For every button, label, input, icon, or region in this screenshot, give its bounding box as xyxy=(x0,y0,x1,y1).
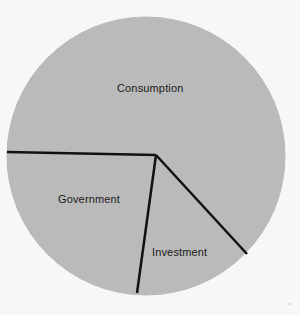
slice-label-investment: Investment xyxy=(152,247,207,258)
slice-label-consumption: Consumption xyxy=(117,83,183,94)
slice-label-government: Government xyxy=(58,194,120,205)
scan-speckle xyxy=(288,303,291,305)
pie-chart-figure: Consumption Government Investment xyxy=(0,0,300,315)
pie-chart-svg xyxy=(0,0,300,315)
scan-speckle xyxy=(92,263,94,265)
